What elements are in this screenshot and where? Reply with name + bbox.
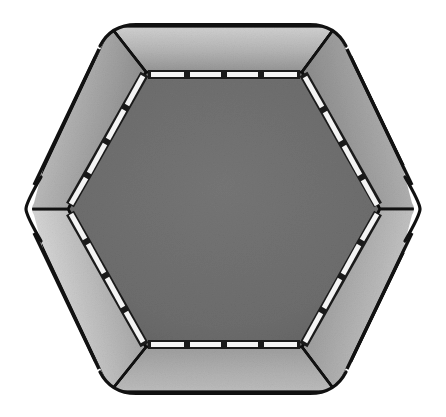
pad-panel-top bbox=[110, 26, 336, 72]
pad-panel-bottom bbox=[110, 347, 336, 392]
hexagonal-trampoline-figure bbox=[0, 0, 446, 417]
illustration-stage: Hexagonal Trampoline — Top View hexagona… bbox=[0, 0, 446, 417]
